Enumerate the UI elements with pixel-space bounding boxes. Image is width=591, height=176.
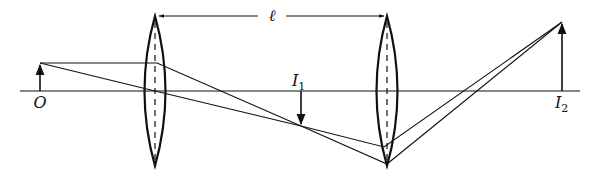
object-arrow: O	[33, 65, 46, 112]
image-1-label: I1	[291, 71, 305, 93]
two-lens-ray-diagram: ℓ O I1 I2	[0, 0, 591, 176]
image-2-arrow: I2	[554, 24, 568, 115]
object-label: O	[33, 93, 46, 112]
image-2-label: I2	[554, 93, 568, 115]
separation-label: ℓ	[269, 6, 276, 25]
image-1-arrow: I1	[291, 71, 305, 124]
separation-dimension: ℓ	[159, 6, 384, 25]
